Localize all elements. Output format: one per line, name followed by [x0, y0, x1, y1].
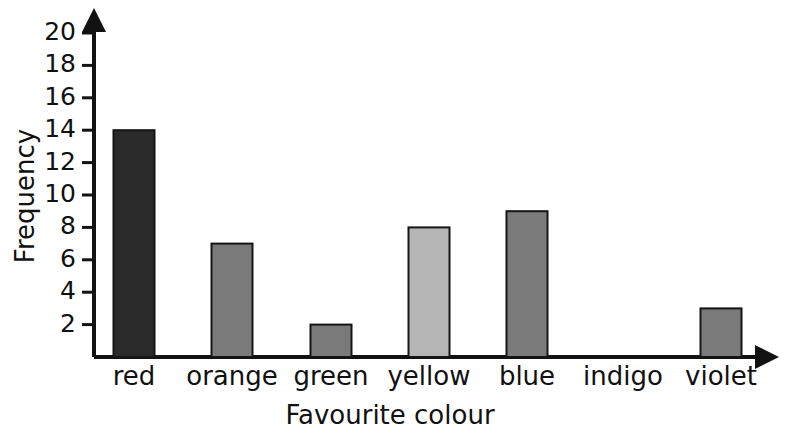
bar-violet[interactable] [701, 308, 742, 357]
bar-yellow[interactable] [409, 227, 450, 357]
chart-canvas: 2 4 6 8 10 12 14 16 18 20 red orange gre… [0, 0, 785, 436]
y-tick-label: 4 [60, 276, 76, 305]
bar-blue[interactable] [507, 211, 548, 357]
bar-red[interactable] [114, 130, 155, 357]
x-tick-label-yellow: yellow [387, 361, 470, 391]
y-tick-label: 16 [44, 82, 76, 111]
y-axis-arrow-icon [82, 8, 106, 32]
x-axis-category-labels: red orange green yellow blue indigo viol… [113, 361, 757, 391]
bar-green[interactable] [311, 325, 352, 357]
x-tick-label-green: green [293, 361, 368, 391]
y-axis-tick-labels: 2 4 6 8 10 12 14 16 18 20 [44, 17, 76, 338]
y-tick-label: 18 [44, 49, 76, 78]
y-tick-label: 14 [44, 114, 76, 143]
bar-orange[interactable] [212, 244, 253, 357]
x-axis-arrow-icon [755, 345, 779, 369]
y-tick-label: 8 [60, 211, 76, 240]
x-tick-label-blue: blue [499, 361, 555, 391]
y-tick-label: 6 [60, 244, 76, 273]
y-tick-label: 20 [44, 17, 76, 46]
y-tick-label: 2 [60, 309, 76, 338]
bars-group [114, 130, 742, 357]
y-tick-label: 12 [44, 147, 76, 176]
y-tick-label: 10 [44, 179, 76, 208]
x-tick-label-orange: orange [186, 361, 278, 391]
x-tick-label-red: red [113, 361, 156, 391]
x-tick-label-violet: violet [685, 361, 757, 391]
y-axis-title: Frequency [10, 129, 40, 263]
bar-chart: 2 4 6 8 10 12 14 16 18 20 red orange gre… [0, 0, 785, 436]
x-tick-label-indigo: indigo [583, 361, 663, 391]
x-axis-title: Favourite colour [285, 400, 494, 430]
